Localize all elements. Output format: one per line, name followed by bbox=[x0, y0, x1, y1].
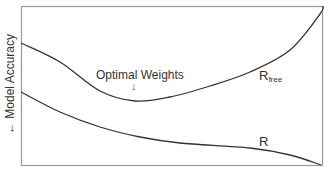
y-axis-label: ← Model Accuracy bbox=[3, 34, 17, 134]
r-series-label: R bbox=[259, 134, 268, 149]
optimal-weights-annotation: Optimal Weights bbox=[96, 68, 184, 82]
plot-area bbox=[0, 0, 324, 174]
r-curve bbox=[21, 92, 321, 165]
rfree-curve bbox=[21, 6, 323, 101]
rfree-series-label: Rfree bbox=[259, 68, 282, 84]
down-arrow-icon: ↓ bbox=[131, 80, 137, 92]
